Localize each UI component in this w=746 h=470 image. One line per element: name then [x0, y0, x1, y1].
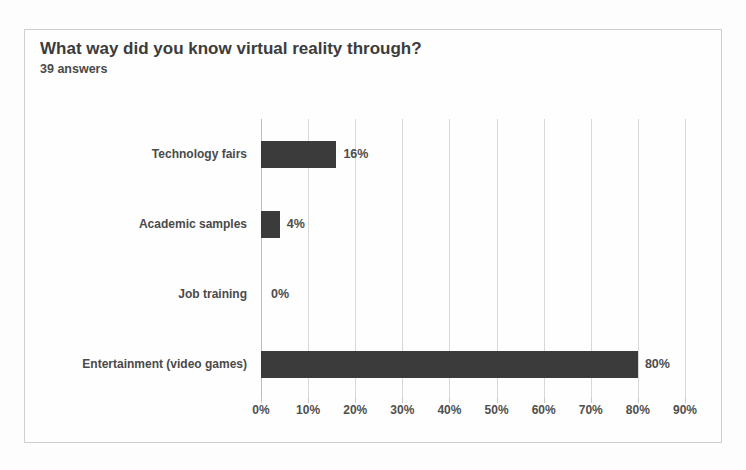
- bar-value-label: 80%: [645, 357, 670, 371]
- x-tick-label: 50%: [485, 403, 509, 417]
- page-background: What way did you know virtual reality th…: [0, 0, 746, 470]
- bar-value-label: 16%: [343, 147, 368, 161]
- bar: [261, 211, 280, 238]
- category-label: Entertainment (video games): [82, 329, 247, 399]
- x-tick-label: 90%: [673, 403, 697, 417]
- x-tick-label: 40%: [437, 403, 461, 417]
- x-tick-label: 30%: [390, 403, 414, 417]
- bar: [261, 351, 638, 378]
- category-axis-labels: Technology fairsAcademic samplesJob trai…: [25, 119, 255, 399]
- chart-card: What way did you know virtual reality th…: [24, 29, 722, 443]
- chart-title: What way did you know virtual reality th…: [40, 39, 422, 59]
- bar-row: 0%: [261, 259, 685, 329]
- plot-area: 16%4%0%80%: [261, 119, 685, 399]
- gridline-90: [685, 119, 686, 399]
- x-tick-label: 80%: [626, 403, 650, 417]
- bar-rows: 16%4%0%80%: [261, 119, 685, 399]
- x-tick-label: 60%: [532, 403, 556, 417]
- bar-row: 4%: [261, 189, 685, 259]
- x-tick-label: 0%: [252, 403, 269, 417]
- x-tick-label: 20%: [343, 403, 367, 417]
- bar-value-label: 0%: [271, 287, 289, 301]
- category-label: Technology fairs: [152, 119, 247, 189]
- chart-subtitle-answer-count: 39 answers: [40, 62, 107, 76]
- category-label: Job training: [178, 259, 247, 329]
- x-axis-tick-labels: 0%10%20%30%40%50%60%70%80%90%: [261, 403, 685, 423]
- bar: [261, 141, 336, 168]
- bar-value-label: 4%: [287, 217, 305, 231]
- category-label: Academic samples: [139, 189, 247, 259]
- bar-row: 16%: [261, 119, 685, 189]
- x-tick-label: 70%: [579, 403, 603, 417]
- x-tick-label: 10%: [296, 403, 320, 417]
- bar-row: 80%: [261, 329, 685, 399]
